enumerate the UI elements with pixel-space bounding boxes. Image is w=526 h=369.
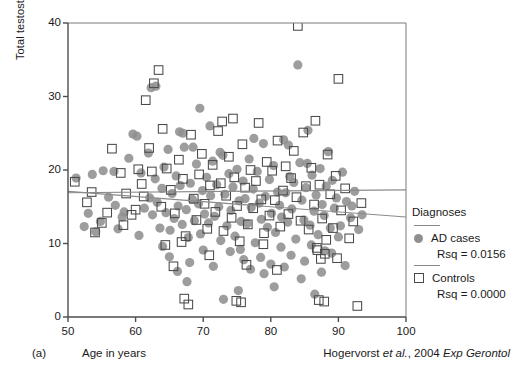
point-marker bbox=[251, 238, 260, 247]
point-marker bbox=[297, 196, 306, 205]
point-marker bbox=[182, 277, 191, 286]
point-marker bbox=[165, 226, 174, 235]
open-square-icon bbox=[414, 273, 424, 283]
point-marker bbox=[326, 223, 335, 232]
point-marker bbox=[238, 176, 247, 185]
x-tick-label: 50 bbox=[53, 325, 83, 337]
point-marker bbox=[198, 150, 207, 159]
point-marker bbox=[88, 170, 97, 179]
point-marker bbox=[332, 193, 341, 202]
point-marker bbox=[346, 213, 355, 222]
legend-rsq-ad-cases: Rsq = 0.0156 bbox=[437, 246, 526, 263]
point-marker bbox=[314, 230, 323, 239]
point-marker bbox=[165, 252, 174, 261]
plot-canvas bbox=[0, 0, 526, 369]
point-marker bbox=[236, 245, 245, 254]
point-marker bbox=[232, 165, 241, 174]
citation: Hogervorst et al., 2004 Exp Gerontol bbox=[323, 347, 510, 359]
point-marker bbox=[338, 168, 347, 177]
point-marker bbox=[249, 134, 258, 143]
point-marker bbox=[357, 210, 366, 219]
point-marker bbox=[309, 207, 318, 216]
point-marker bbox=[154, 66, 163, 75]
legend-entry-controls[interactable]: Controls bbox=[412, 270, 526, 286]
point-marker bbox=[226, 247, 235, 256]
point-marker bbox=[163, 145, 172, 154]
point-marker bbox=[281, 162, 290, 171]
point-marker bbox=[200, 210, 209, 219]
point-marker bbox=[320, 211, 329, 220]
point-marker bbox=[322, 236, 331, 245]
legend: Diagnoses AD cases Rsq = 0.0156 Controls… bbox=[412, 206, 526, 303]
point-marker bbox=[141, 96, 150, 105]
point-marker bbox=[281, 188, 290, 197]
point-marker bbox=[199, 246, 208, 255]
x-tick-label: 60 bbox=[121, 325, 151, 337]
point-marker bbox=[172, 171, 181, 180]
point-marker bbox=[209, 262, 218, 271]
x-tick-label: 70 bbox=[188, 325, 218, 337]
point-marker bbox=[238, 140, 247, 149]
point-marker bbox=[84, 209, 93, 218]
point-marker bbox=[293, 60, 302, 69]
point-marker bbox=[80, 222, 89, 231]
point-marker bbox=[113, 224, 122, 233]
point-marker bbox=[286, 251, 295, 260]
point-marker bbox=[300, 257, 309, 266]
point-marker bbox=[151, 82, 160, 91]
point-marker bbox=[311, 116, 320, 125]
x-axis-title: Age in years bbox=[82, 347, 146, 359]
legend-entry-ad-cases[interactable]: AD cases bbox=[412, 230, 526, 246]
point-marker bbox=[229, 114, 238, 123]
legend-rsq-controls: Rsq = 0.0000 bbox=[437, 286, 526, 303]
point-marker bbox=[134, 231, 143, 240]
point-marker bbox=[148, 210, 157, 219]
legend-divider-mid bbox=[414, 265, 440, 266]
point-marker bbox=[239, 255, 248, 264]
point-marker bbox=[192, 160, 201, 169]
point-marker bbox=[256, 253, 265, 262]
point-marker bbox=[341, 184, 350, 193]
point-marker bbox=[318, 200, 327, 209]
point-marker bbox=[187, 130, 196, 139]
point-marker bbox=[257, 215, 266, 224]
y-tick-label: 10 bbox=[35, 237, 61, 249]
point-marker bbox=[270, 282, 279, 291]
point-marker bbox=[176, 181, 185, 190]
point-marker bbox=[140, 204, 149, 213]
point-marker bbox=[317, 268, 326, 277]
point-marker bbox=[263, 223, 272, 232]
point-marker bbox=[228, 182, 237, 191]
citation-etal: et al. bbox=[383, 347, 408, 359]
point-marker bbox=[132, 132, 141, 141]
data-points-layer bbox=[68, 22, 406, 311]
point-marker bbox=[103, 208, 112, 217]
series-ad-cases bbox=[72, 60, 367, 304]
point-marker bbox=[175, 155, 184, 164]
point-marker bbox=[178, 129, 187, 138]
point-marker bbox=[108, 144, 117, 153]
citation-author: Hogervorst bbox=[323, 347, 379, 359]
point-marker bbox=[124, 154, 133, 163]
point-marker bbox=[266, 259, 275, 268]
y-tick-label: 30 bbox=[35, 90, 61, 102]
point-marker bbox=[267, 209, 276, 218]
point-marker bbox=[334, 232, 343, 241]
point-marker bbox=[245, 154, 254, 163]
point-marker bbox=[354, 225, 363, 234]
point-marker bbox=[347, 201, 356, 210]
point-marker bbox=[234, 286, 243, 295]
point-marker bbox=[276, 243, 285, 252]
legend-divider-top bbox=[414, 225, 440, 226]
x-tick-label: 90 bbox=[323, 325, 353, 337]
point-marker bbox=[219, 295, 228, 304]
point-marker bbox=[206, 191, 215, 200]
point-marker bbox=[241, 194, 250, 203]
point-marker bbox=[111, 201, 120, 210]
point-marker bbox=[259, 269, 268, 278]
y-tick-label: 0 bbox=[35, 310, 61, 322]
point-marker bbox=[196, 229, 205, 238]
x-tick-label: 100 bbox=[391, 325, 421, 337]
point-marker bbox=[218, 117, 227, 126]
legend-label-controls: Controls bbox=[432, 272, 475, 284]
